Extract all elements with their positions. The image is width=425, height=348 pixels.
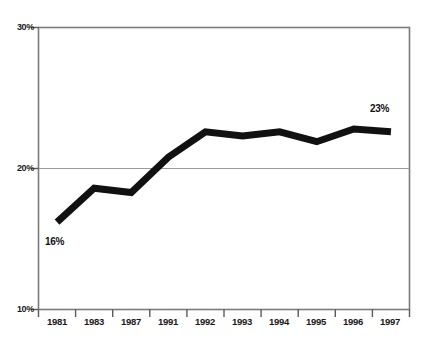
x-axis-label-1993: 1993: [222, 316, 262, 327]
x-axis-label-1995: 1995: [296, 316, 336, 327]
y-axis-label-10: 10%: [4, 304, 34, 314]
y-axis-label-20: 20%: [4, 163, 34, 173]
annotation-end-value: 23%: [370, 103, 389, 114]
data-series-line: [57, 129, 391, 222]
y-axis-label-30: 30%: [4, 22, 34, 32]
x-axis-label-1997: 1997: [370, 316, 410, 327]
x-axis-label-1996: 1996: [333, 316, 373, 327]
x-axis-label-1994: 1994: [259, 316, 299, 327]
x-axis-label-1987: 1987: [111, 316, 151, 327]
x-axis-label-1992: 1992: [185, 316, 225, 327]
x-axis-label-1991: 1991: [148, 316, 188, 327]
x-axis-label-1983: 1983: [74, 316, 114, 327]
plot-canvas: [0, 0, 425, 348]
annotation-start-value: 16%: [45, 236, 64, 247]
chart-figure: 30% 20% 10% 1981 1983 1987 1991 1992 199…: [0, 0, 425, 348]
x-axis-label-1981: 1981: [37, 316, 77, 327]
